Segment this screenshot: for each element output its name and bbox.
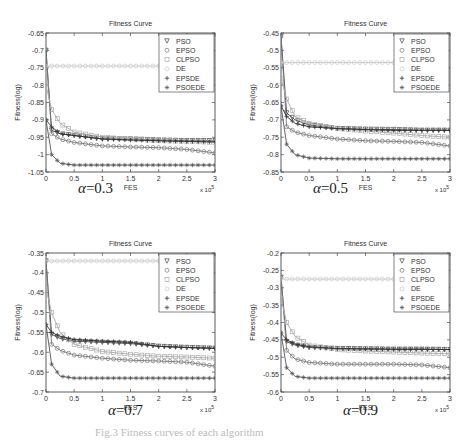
svg-text:CLPSO: CLPSO xyxy=(411,56,435,63)
chart-panel-alpha-0-7: Fitness Curve00.511.522.53-0.35-0.4-0.45… xyxy=(0,220,235,420)
svg-text:0.5: 0.5 xyxy=(69,395,79,402)
svg-text:2.5: 2.5 xyxy=(417,395,427,402)
svg-text:-0.25: -0.25 xyxy=(263,267,279,274)
svg-text:0: 0 xyxy=(44,175,48,182)
svg-text:-0.8: -0.8 xyxy=(267,151,279,158)
svg-text:3: 3 xyxy=(213,175,217,182)
svg-text:EPSDE: EPSDE xyxy=(176,75,200,82)
svg-text:-0.9: -0.9 xyxy=(32,116,44,123)
svg-text:-0.35: -0.35 xyxy=(28,250,44,257)
svg-text:-0.2: -0.2 xyxy=(267,250,279,257)
svg-text:-0.65: -0.65 xyxy=(28,369,44,376)
svg-text:EPSO: EPSO xyxy=(176,47,196,54)
svg-text:DE: DE xyxy=(176,65,186,72)
svg-text:-0.5: -0.5 xyxy=(267,47,279,54)
svg-text:PSO: PSO xyxy=(411,38,426,45)
svg-text:-0.8: -0.8 xyxy=(32,82,44,89)
alpha-label: α=0.3 xyxy=(78,180,113,197)
svg-text:-0.7: -0.7 xyxy=(32,389,44,396)
svg-text:-0.55: -0.55 xyxy=(263,64,279,71)
svg-text:2: 2 xyxy=(392,395,396,402)
svg-text:1: 1 xyxy=(100,395,104,402)
svg-text:PSO: PSO xyxy=(411,258,426,265)
svg-text:-1: -1 xyxy=(38,151,44,158)
svg-text:PSOEDE: PSOEDE xyxy=(176,84,206,91)
figure-caption: Fig.3 Fitness curves of each algorithm xyxy=(95,426,264,438)
svg-text:EPSDE: EPSDE xyxy=(411,75,435,82)
svg-text:2.5: 2.5 xyxy=(182,395,192,402)
svg-text:-0.75: -0.75 xyxy=(263,134,279,141)
svg-text:-0.4: -0.4 xyxy=(267,319,279,326)
svg-text:-0.55: -0.55 xyxy=(28,329,44,336)
svg-text:DE: DE xyxy=(176,285,186,292)
svg-text:-0.6: -0.6 xyxy=(267,389,279,396)
svg-text:-0.45: -0.45 xyxy=(263,336,279,343)
svg-text:x 105: x 105 xyxy=(435,184,449,193)
svg-text:1.5: 1.5 xyxy=(361,175,371,182)
svg-text:-0.7: -0.7 xyxy=(267,116,279,123)
fitness-chart: Fitness Curve00.511.522.53-0.65-0.7-0.75… xyxy=(0,0,235,200)
svg-text:2.5: 2.5 xyxy=(417,175,427,182)
svg-text:-0.65: -0.65 xyxy=(28,30,44,37)
svg-text:PSO: PSO xyxy=(176,38,191,45)
svg-text:x 105: x 105 xyxy=(200,404,214,413)
svg-text:Fitness(log): Fitness(log) xyxy=(14,84,22,121)
svg-text:0: 0 xyxy=(44,395,48,402)
svg-text:PSOEDE: PSOEDE xyxy=(176,304,206,311)
svg-text:3: 3 xyxy=(448,175,452,182)
svg-text:EPSDE: EPSDE xyxy=(176,295,200,302)
svg-text:-0.85: -0.85 xyxy=(263,169,279,176)
chart-panel-alpha-0-3: Fitness Curve00.511.522.53-0.65-0.7-0.75… xyxy=(0,0,235,200)
svg-text:3: 3 xyxy=(213,395,217,402)
svg-text:Fitness(log): Fitness(log) xyxy=(249,304,257,341)
svg-text:x 105: x 105 xyxy=(435,404,449,413)
svg-text:-0.5: -0.5 xyxy=(32,309,44,316)
svg-text:2: 2 xyxy=(157,395,161,402)
svg-text:Fitness(log): Fitness(log) xyxy=(14,304,22,341)
svg-text:-0.5: -0.5 xyxy=(267,354,279,361)
svg-text:EPSO: EPSO xyxy=(176,267,196,274)
svg-text:Fitness(log): Fitness(log) xyxy=(249,84,257,121)
svg-text:3: 3 xyxy=(448,395,452,402)
svg-text:DE: DE xyxy=(411,65,421,72)
svg-text:2: 2 xyxy=(157,175,161,182)
svg-text:1.5: 1.5 xyxy=(126,395,136,402)
svg-text:-0.65: -0.65 xyxy=(263,99,279,106)
svg-text:-0.95: -0.95 xyxy=(28,134,44,141)
svg-text:FES: FES xyxy=(124,184,138,191)
svg-text:EPSDE: EPSDE xyxy=(411,295,435,302)
svg-text:EPSO: EPSO xyxy=(411,47,431,54)
svg-text:CLPSO: CLPSO xyxy=(176,56,200,63)
svg-text:CLPSO: CLPSO xyxy=(176,276,200,283)
fitness-chart: Fitness Curve00.511.522.53-0.35-0.4-0.45… xyxy=(0,220,235,420)
svg-text:-0.45: -0.45 xyxy=(263,30,279,37)
svg-text:-0.75: -0.75 xyxy=(28,64,44,71)
svg-text:FES: FES xyxy=(359,184,373,191)
svg-text:0.5: 0.5 xyxy=(304,395,314,402)
svg-text:Fitness Curve: Fitness Curve xyxy=(109,240,152,247)
svg-text:PSO: PSO xyxy=(176,258,191,265)
svg-text:-0.7: -0.7 xyxy=(32,47,44,54)
svg-text:0: 0 xyxy=(279,395,283,402)
svg-text:PSOEDE: PSOEDE xyxy=(411,304,441,311)
alpha-label: α=0.5 xyxy=(313,180,348,197)
alpha-label: α=0.7 xyxy=(108,402,143,419)
svg-text:1.5: 1.5 xyxy=(126,175,136,182)
svg-text:-0.6: -0.6 xyxy=(267,82,279,89)
svg-text:CLPSO: CLPSO xyxy=(411,276,435,283)
svg-text:-0.55: -0.55 xyxy=(263,371,279,378)
svg-text:DE: DE xyxy=(411,285,421,292)
svg-text:-0.45: -0.45 xyxy=(28,289,44,296)
fitness-chart: Fitness Curve00.511.522.53-0.2-0.25-0.3-… xyxy=(235,220,470,420)
fitness-chart: Fitness Curve00.511.522.53-0.45-0.5-0.55… xyxy=(235,0,470,200)
svg-text:-0.85: -0.85 xyxy=(28,99,44,106)
chart-panel-alpha-0-5: Fitness Curve00.511.522.53-0.45-0.5-0.55… xyxy=(235,0,470,200)
svg-text:2.5: 2.5 xyxy=(182,175,192,182)
svg-text:1.5: 1.5 xyxy=(361,395,371,402)
svg-text:-0.6: -0.6 xyxy=(32,349,44,356)
svg-text:Fitness Curve: Fitness Curve xyxy=(109,20,152,27)
svg-text:-0.4: -0.4 xyxy=(32,269,44,276)
svg-text:Fitness Curve: Fitness Curve xyxy=(344,20,387,27)
svg-text:x 105: x 105 xyxy=(200,184,214,193)
svg-text:-1.05: -1.05 xyxy=(28,169,44,176)
